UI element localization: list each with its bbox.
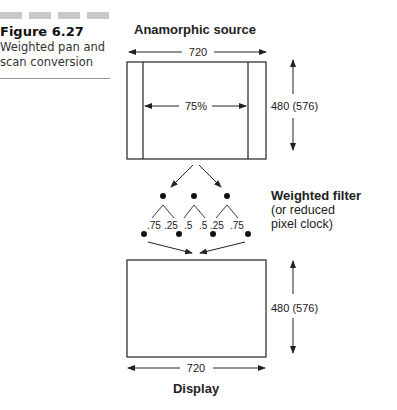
display-height-dimension: 480 (576) [271,261,318,353]
weighted-filter-taps: .75 .25 .5 .5 .25 .75 [141,193,251,237]
output-pixel-dot [141,231,147,237]
arrow-converge-left-icon [200,242,245,253]
source-frame: 75% [127,62,266,159]
display-height-label: 480 (576) [271,302,318,314]
arrow-down-right-icon [199,165,221,187]
source-height-dimension: 480 (576) [271,60,318,150]
display-width-dimension: 720 [128,362,265,374]
pan-scan-percent-label: 75% [185,100,207,112]
source-width-dimension: 720 [129,46,266,58]
output-pixel-dot [176,231,182,237]
arrow-converge-right-icon [148,242,192,253]
weight-label: .5 [184,220,193,231]
source-title: Anamorphic source [134,22,256,37]
filter-note-line2: pixel clock) [271,217,333,231]
weight-label: .25 [164,220,178,231]
display-title: Display [173,381,220,396]
weight-label: .5 [199,220,208,231]
source-pixel-dot [191,193,197,199]
display-width-label: 720 [187,362,205,374]
source-height-label: 480 (576) [271,100,318,112]
output-pixel-dot [245,231,251,237]
pan-scan-diagram: Anamorphic source 720 75% 480 (576) .75 … [0,0,397,410]
weight-label: .75 [147,220,161,231]
arrow-down-left-icon [171,165,193,187]
output-pixel-dot [210,231,216,237]
weight-label: .75 [230,220,244,231]
filter-title: Weighted filter [271,188,361,203]
source-width-label: 720 [189,46,207,58]
display-frame [127,260,266,357]
weight-label: .25 [210,220,224,231]
source-pixel-dot [160,193,166,199]
source-pixel-dot [224,193,230,199]
filter-note-line1: (or reduced [271,203,335,217]
